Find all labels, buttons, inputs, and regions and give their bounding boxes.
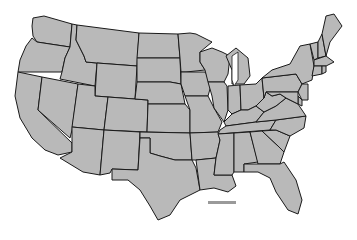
state-ar[interactable]	[190, 132, 220, 160]
scale-bar	[208, 201, 236, 204]
state-me[interactable]	[322, 14, 342, 56]
state-in[interactable]	[228, 85, 241, 114]
states-layer	[15, 14, 342, 220]
state-ct[interactable]	[312, 66, 322, 76]
us-map	[0, 0, 357, 240]
lake-michigan	[232, 52, 238, 86]
state-ks[interactable]	[147, 104, 190, 133]
state-wy[interactable]	[95, 63, 137, 99]
state-nm[interactable]	[100, 130, 140, 175]
state-fl[interactable]	[244, 162, 302, 214]
state-ri[interactable]	[322, 66, 326, 74]
state-co[interactable]	[104, 97, 148, 132]
state-mt[interactable]	[76, 25, 139, 66]
state-nd[interactable]	[137, 33, 180, 58]
state-sd[interactable]	[137, 58, 181, 84]
